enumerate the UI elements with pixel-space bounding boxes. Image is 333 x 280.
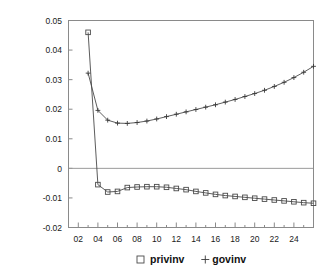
x-tick-label: 20 [250,234,260,244]
x-tick-label: 22 [270,234,280,244]
x-tick-label: 18 [230,234,240,244]
y-tick-label: 0.04 [45,45,62,55]
y-tick-label: 0.01 [45,134,62,144]
x-tick-label: 08 [132,234,142,244]
investment-line-chart: 0.050.040.030.020.010-0.01-0.02 02040608… [0,0,333,280]
x-tick-label: 24 [289,234,299,244]
x-tick-label: 10 [152,234,162,244]
y-tick-label: 0 [57,164,62,174]
y-tick-label: -0.02 [43,223,63,233]
chart-container: 0.050.040.030.020.010-0.01-0.02 02040608… [0,0,333,280]
x-tick-label: 02 [74,234,84,244]
y-tick-label: 0.02 [45,104,62,114]
x-tick-label: 12 [172,234,182,244]
y-tick-label: 0.05 [45,16,62,26]
y-tick-label: -0.01 [43,193,63,203]
x-tick-label: 04 [93,234,103,244]
x-tick-label: 14 [191,234,201,244]
legend-label-privinv: privinv [150,253,185,265]
y-tick-label: 0.03 [45,75,62,85]
x-tick-label: 16 [211,234,221,244]
legend-label-govinv: govinv [212,253,246,265]
x-tick-label: 06 [113,234,123,244]
